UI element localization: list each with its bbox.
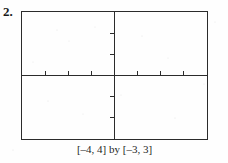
axes-group (22, 12, 207, 139)
problem-number-label: 2. (3, 5, 13, 19)
figure-container: 2. [–4, 4] by [–3, 3] (0, 0, 228, 163)
viewing-window-caption: [–4, 4] by [–3, 3] (21, 143, 208, 156)
axes-and-ticks (22, 12, 207, 139)
graphing-calculator-viewing-window (21, 11, 208, 140)
